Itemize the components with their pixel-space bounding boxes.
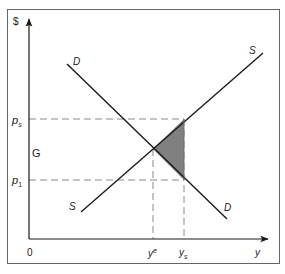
quantity-ye-label: ye (147, 247, 157, 259)
origin-label: 0 (27, 247, 33, 258)
x-axis-label: y (254, 247, 261, 258)
ps-sub: s (18, 121, 22, 128)
ps-main: p (11, 114, 18, 126)
price-p1-label: p1 (11, 174, 22, 188)
ys-sub: s (184, 253, 188, 260)
p1-main: p (11, 174, 18, 186)
demand-label-bottom: D (224, 202, 231, 213)
price-ps-label: ps (11, 114, 22, 128)
ye-sup: e (153, 247, 157, 254)
y-axis-label: $ (13, 16, 19, 27)
quantity-ys-label: ys (178, 247, 188, 260)
demand-label-top: D (73, 56, 80, 67)
p1-sub: 1 (18, 181, 22, 188)
supply-label-top: S (249, 45, 256, 56)
supply-label-bottom: S (69, 201, 76, 212)
supply-curve (81, 53, 263, 212)
guide-lines (29, 119, 184, 239)
supply-demand-diagram: $ 0 y ps p1 G ye ys D D S S (0, 0, 285, 274)
shaded-region (153, 119, 184, 180)
figure-frame (8, 10, 280, 264)
demand-curve (67, 64, 227, 219)
region-g-label: G (32, 147, 41, 159)
